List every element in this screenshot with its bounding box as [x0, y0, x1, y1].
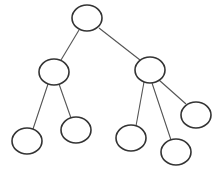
edge-right-to-right-leaf-3 — [159, 80, 186, 104]
edge-root-to-left — [61, 30, 79, 60]
tree-node-left-leaf-1 — [12, 128, 42, 154]
edge-right-to-right-leaf-2 — [152, 83, 171, 140]
tree-node-right-leaf-2 — [161, 139, 191, 165]
tree-node-right — [135, 57, 165, 83]
tree-node-root — [72, 5, 102, 31]
tree-node-right-leaf-1 — [116, 125, 146, 151]
tree-node-left-leaf-2 — [61, 117, 91, 143]
edge-left-to-left-leaf-2 — [59, 84, 71, 118]
tree-diagram — [0, 0, 222, 172]
edge-right-to-right-leaf-1 — [136, 82, 144, 126]
nodes-group — [12, 5, 211, 165]
edge-root-to-right — [99, 28, 140, 60]
edge-left-to-left-leaf-1 — [33, 84, 48, 129]
tree-node-left — [39, 59, 69, 85]
tree-node-right-leaf-3 — [181, 102, 211, 128]
